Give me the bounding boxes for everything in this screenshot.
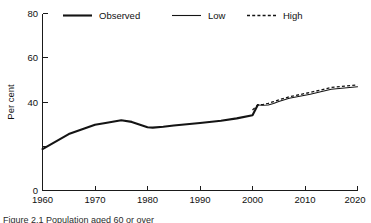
y-tick-labels: 80 60 40 0	[27, 8, 38, 196]
x-tick-marks	[43, 186, 358, 191]
x-tick-labels: 1960 1970 1980 1990 2000 2010 2020	[32, 194, 366, 205]
y-tick-label-80: 80	[27, 8, 38, 19]
x-tick-label-1970: 1970	[84, 194, 105, 205]
series-line-observed	[43, 105, 258, 149]
y-tick-label-60: 60	[27, 52, 38, 63]
axes-group	[43, 14, 358, 191]
x-tick-label-2000: 2000	[242, 194, 263, 205]
line-chart: 80 60 40 0 1960 1970 1980 1990 2000 2010…	[0, 0, 371, 223]
data-series-group	[43, 85, 358, 149]
legend: Observed Low High	[63, 10, 303, 21]
y-tick-marks	[43, 14, 48, 191]
legend-label-high[interactable]: High	[283, 10, 303, 21]
y-tick-label-40: 40	[27, 97, 38, 108]
x-tick-label-2020: 2020	[344, 194, 365, 205]
x-tick-label-1980: 1980	[137, 194, 158, 205]
figure-container: 80 60 40 0 1960 1970 1980 1990 2000 2010…	[0, 0, 371, 223]
x-tick-label-1960: 1960	[32, 194, 53, 205]
legend-label-observed[interactable]: Observed	[99, 10, 140, 21]
legend-label-low[interactable]: Low	[208, 10, 226, 21]
y-axis-title: Per cent	[5, 84, 16, 120]
x-tick-label-2010: 2010	[294, 194, 315, 205]
x-tick-label-1990: 1990	[189, 194, 210, 205]
figure-caption: Figure 2.1 Population aged 60 or over	[3, 215, 213, 223]
